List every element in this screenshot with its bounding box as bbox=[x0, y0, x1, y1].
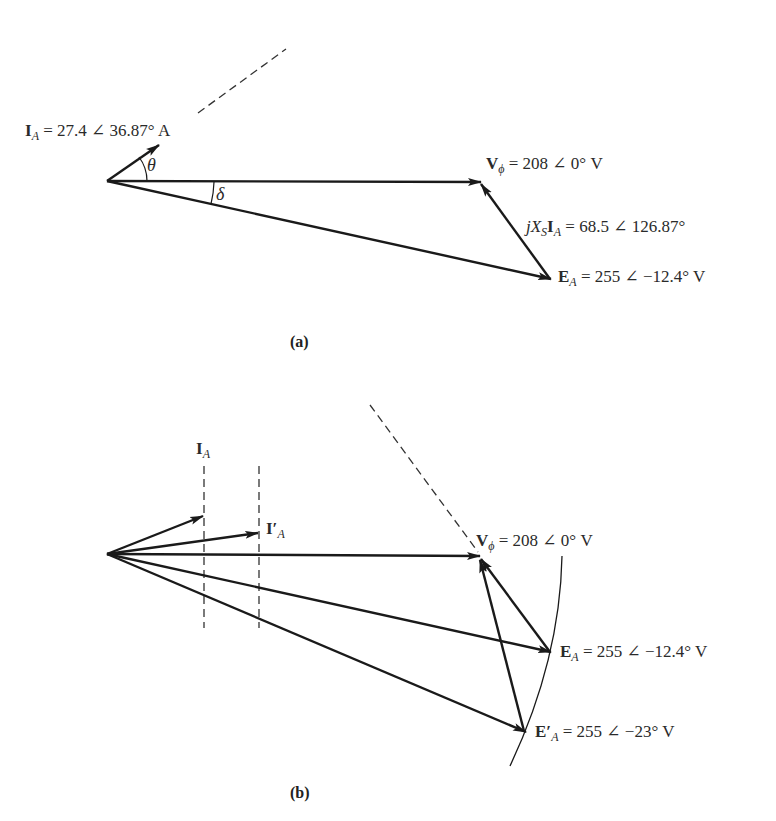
ia-extension-dashed-line bbox=[198, 49, 286, 113]
ea-phasor-arrow-b bbox=[107, 554, 551, 652]
ea-prime-label: E′A = 255 ∠ −23° V bbox=[535, 723, 674, 743]
vphi-label-b: Vϕ = 208 ∠ 0° V bbox=[476, 532, 593, 552]
ea-label-b: EA = 255 ∠ −12.4° V bbox=[560, 643, 707, 663]
jxsia-label: jXSIA = 68.5 ∠ 126.87° bbox=[526, 218, 685, 238]
vphi-phasor-arrow-b bbox=[107, 554, 480, 556]
ia-label: IA = 27.4 ∠ 36.87° A bbox=[25, 122, 170, 142]
theta-label: θ bbox=[147, 155, 156, 176]
ia-label-b: IA bbox=[196, 440, 210, 460]
ea-prime-phasor-arrow bbox=[107, 554, 526, 732]
jxsia-direction-dashed-line bbox=[370, 405, 478, 552]
ia-prime-label: I′A bbox=[266, 520, 285, 540]
phasor-figure: IA = 27.4 ∠ 36.87° A θ δ Vϕ = 208 ∠ 0° V… bbox=[0, 0, 776, 821]
delta-angle-arc bbox=[211, 182, 214, 204]
diagram-a bbox=[107, 49, 551, 279]
caption-a: (a) bbox=[290, 333, 309, 351]
caption-b: (b) bbox=[290, 784, 310, 802]
vphi-phasor-arrow bbox=[107, 181, 481, 182]
diagram-b bbox=[107, 405, 562, 766]
ea-phasor-arrow bbox=[107, 181, 551, 279]
ea-label: EA = 255 ∠ −12.4° V bbox=[558, 268, 705, 288]
delta-label: δ bbox=[216, 184, 224, 205]
theta-angle-arc bbox=[139, 157, 147, 181]
vphi-label: Vϕ = 208 ∠ 0° V bbox=[486, 155, 603, 175]
ia-prime-phasor-arrow bbox=[107, 533, 258, 554]
